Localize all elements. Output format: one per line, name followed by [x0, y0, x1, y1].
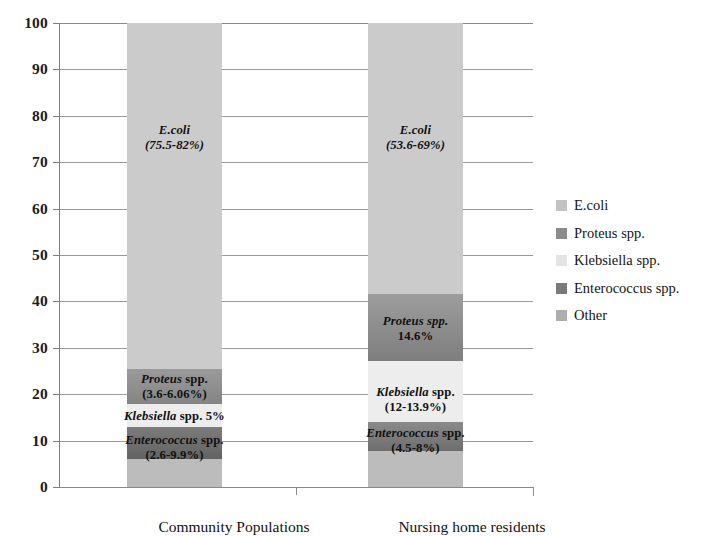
bar-label-enterococcus-nursing-name: Enterococcus	[366, 426, 438, 440]
plot-area: E.coli (75.5-82%) Proteus spp. (3.6-6.06…	[60, 23, 533, 487]
bar-segment-other-community[interactable]	[127, 459, 222, 487]
legend: E.coli Proteus spp. Klebsiella spp. Ente…	[556, 192, 716, 330]
y-axis-tick-0	[53, 487, 60, 488]
y-axis-tick-70	[53, 162, 60, 163]
bar-label-proteus-community: Proteus spp. (3.6-6.06%)	[55, 372, 295, 402]
y-axis-label-80: 80	[2, 107, 48, 125]
y-axis-label-0: 0	[2, 478, 48, 496]
legend-label-other: Other	[574, 307, 607, 324]
legend-swatch-other	[556, 310, 567, 321]
y-axis-label-10: 10	[2, 432, 48, 450]
y-axis-tick-30	[53, 348, 60, 349]
gridline-0	[60, 487, 533, 488]
y-axis-label-60: 60	[2, 200, 48, 218]
bar-label-enterococcus-nursing: Enterococcus spp. (4.5-8%)	[296, 426, 536, 456]
bar-label-proteus-nursing-value: 14.6%	[398, 329, 433, 343]
bar-label-enterococcus-nursing-suffix: spp.	[439, 426, 465, 440]
legend-item-enterococcus[interactable]: Enterococcus spp.	[556, 275, 716, 303]
legend-item-klebsiella[interactable]: Klebsiella spp.	[556, 247, 716, 275]
bar-label-ecoli-community-name: E.coli	[159, 123, 190, 137]
bar-label-klebsiella-nursing: Klebsiella spp. (12-13.9%)	[296, 385, 536, 415]
bar-segment-ecoli-community[interactable]	[127, 23, 222, 369]
x-axis-right-tick	[533, 487, 534, 496]
bar-label-klebsiella-nursing-value: (12-13.9%)	[385, 400, 446, 414]
caption-clipped	[0, 528, 718, 536]
bar-label-ecoli-community-value: (75.5-82%)	[145, 138, 204, 152]
bar-segment-ecoli-nursing[interactable]	[368, 23, 463, 294]
y-axis-label-30: 30	[2, 339, 48, 357]
bar-label-enterococcus-community-name: Enterococcus	[125, 433, 197, 447]
legend-swatch-klebsiella	[556, 255, 567, 266]
legend-label-enterococcus: Enterococcus spp.	[574, 280, 680, 297]
y-axis-labels: 100 90 80 70 60 50 40 30 20 10 0	[0, 0, 48, 536]
legend-item-proteus[interactable]: Proteus spp.	[556, 220, 716, 248]
bar-label-klebsiella-nursing-name: Klebsiella	[376, 385, 428, 399]
bar-label-proteus-community-suffix: spp.	[182, 372, 208, 386]
bar-segment-other-nursing[interactable]	[368, 451, 463, 487]
y-axis-tick-90	[53, 69, 60, 70]
y-axis-label-40: 40	[2, 292, 48, 310]
legend-label-ecoli: E.coli	[574, 197, 608, 214]
bar-label-proteus-community-name: Proteus	[141, 372, 182, 386]
y-axis-label-70: 70	[2, 153, 48, 171]
y-axis-tick-60	[53, 209, 60, 210]
bar-label-klebsiella-community: Klebsiella spp. 5%	[55, 409, 295, 424]
bar-label-klebsiella-community-suffix: spp. 5%	[177, 409, 225, 423]
y-axis-label-90: 90	[2, 60, 48, 78]
y-axis-tick-80	[53, 116, 60, 117]
bar-label-klebsiella-community-name: Klebsiella	[124, 409, 176, 423]
y-axis-tick-50	[53, 255, 60, 256]
y-axis-tick-100	[53, 23, 60, 24]
bar-label-enterococcus-nursing-value: (4.5-8%)	[391, 441, 439, 455]
bar-label-klebsiella-nursing-suffix: spp.	[429, 385, 455, 399]
bar-label-ecoli-nursing-value: (53.6-69%)	[386, 138, 445, 152]
legend-swatch-proteus	[556, 228, 567, 239]
legend-label-klebsiella: Klebsiella spp.	[574, 252, 660, 269]
y-axis-tick-40	[53, 301, 60, 302]
bar-label-proteus-community-value: (3.6-6.06%)	[142, 387, 207, 401]
legend-label-proteus: Proteus spp.	[574, 225, 645, 242]
bar-label-enterococcus-community-value: (2.6-9.9%)	[145, 448, 203, 462]
bar-label-enterococcus-community: Enterococcus spp. (2.6-9.9%)	[55, 433, 295, 463]
legend-item-other[interactable]: Other	[556, 302, 716, 330]
legend-item-ecoli[interactable]: E.coli	[556, 192, 716, 220]
bar-label-ecoli-nursing-name: E.coli	[400, 123, 431, 137]
bar-label-proteus-nursing: Proteus spp. 14.6%	[296, 314, 536, 344]
legend-swatch-enterococcus	[556, 283, 567, 294]
x-axis-center-tick	[296, 487, 297, 495]
y-axis-label-100: 100	[2, 14, 48, 32]
bar-label-ecoli-community: E.coli (75.5-82%)	[55, 123, 295, 153]
bar-label-ecoli-nursing: E.coli (53.6-69%)	[296, 123, 536, 153]
bar-label-enterococcus-community-suffix: spp.	[198, 433, 224, 447]
bar-label-proteus-nursing-name: Proteus spp.	[383, 314, 448, 328]
y-axis-label-20: 20	[2, 385, 48, 403]
legend-swatch-ecoli	[556, 200, 567, 211]
y-axis-label-50: 50	[2, 246, 48, 264]
stacked-bar-chart-figure: 100 90 80 70 60 50 40 30 20 10 0	[0, 0, 718, 536]
